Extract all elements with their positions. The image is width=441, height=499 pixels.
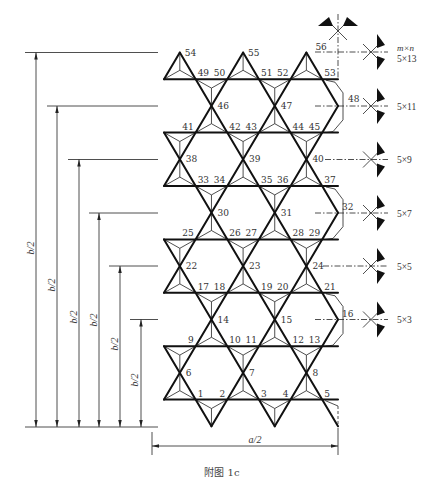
node-label: 2 [220, 389, 226, 399]
node-label: 10 [229, 335, 241, 345]
node-label: 8 [312, 368, 318, 378]
support-flag [377, 248, 385, 262]
dimension-label: b/2 [25, 242, 36, 255]
node-label: 9 [188, 335, 194, 345]
support-flag [318, 17, 333, 26]
node-label: 52 [277, 68, 288, 78]
support-size-label: 5×11 [397, 102, 417, 112]
node-label: 1 [198, 389, 204, 399]
diagonal-member [164, 133, 338, 427]
support-flag [377, 110, 385, 124]
node-label: 14 [217, 315, 229, 325]
edge-web-member [325, 401, 338, 406]
node-label: 21 [324, 282, 335, 292]
dimension-label: b/2 [88, 314, 99, 327]
node-label: 53 [324, 68, 336, 78]
node-label: 54 [185, 48, 197, 58]
support-flag [377, 302, 385, 316]
node-label: 5 [324, 389, 330, 399]
horizontal-dimension: a/2 [152, 428, 338, 455]
node-label: 36 [277, 175, 289, 185]
support-size-label: 5×3 [397, 315, 412, 325]
node-label: 24 [312, 261, 324, 271]
dimension-label: b/2 [68, 311, 79, 324]
node-label: 42 [229, 122, 240, 132]
node-label: 32 [342, 202, 353, 212]
node-label: 22 [186, 261, 197, 271]
node-label: 51 [261, 68, 272, 78]
dimension-label: b/2 [109, 338, 120, 351]
node-label: 49 [198, 68, 210, 78]
node-label: 55 [248, 48, 260, 58]
node-label: 23 [249, 261, 261, 271]
node-label: 20 [277, 282, 289, 292]
figure-caption: 附图 1c [204, 466, 240, 478]
support-size-label: 5×5 [397, 262, 412, 272]
diagonal-member [164, 106, 338, 400]
node-label: 25 [182, 228, 194, 238]
node-label: 47 [281, 101, 293, 111]
node-label: 30 [217, 208, 229, 218]
support-header-label: m×n [397, 43, 415, 53]
node-label: 18 [214, 282, 226, 292]
node-label: 38 [186, 154, 198, 164]
node-label: 39 [249, 154, 261, 164]
support-size-label: 5×7 [397, 209, 412, 219]
support-size-label: 5×13 [397, 54, 417, 64]
node-label: 43 [245, 122, 257, 132]
node-label: 31 [281, 208, 292, 218]
support-flag [377, 195, 385, 209]
support-flag [377, 217, 385, 231]
support-size-label: 5×9 [397, 155, 412, 165]
grid-structure-diagram: b/2 b/2 b/2 b/2 b/2 b/2 a/2 123456789101… [0, 0, 441, 499]
support-flag [343, 17, 358, 26]
support-flag [377, 164, 385, 178]
node-label: 41 [182, 122, 193, 132]
node-label: 56 [315, 42, 327, 52]
support-flag [377, 88, 385, 102]
support-flag [377, 142, 385, 156]
dimension-label: b/2 [46, 279, 57, 292]
support-flag [377, 324, 385, 338]
dimension-label: a/2 [249, 434, 262, 445]
node-label: 35 [261, 175, 273, 185]
node-label: 26 [229, 228, 241, 238]
node-label: 17 [198, 282, 210, 292]
diagonal-member [164, 53, 306, 293]
support-row: m×n5×13 [315, 34, 417, 70]
node-label: 34 [214, 175, 226, 185]
node-label: 33 [198, 175, 210, 185]
node-label: 44 [293, 122, 305, 132]
node-label: 3 [261, 389, 267, 399]
node-label: 29 [309, 228, 321, 238]
node-label: 4 [283, 389, 289, 399]
node-label: 46 [217, 101, 229, 111]
vertical-dimensions: b/2 b/2 b/2 b/2 b/2 b/2 [25, 53, 158, 428]
node-label: 40 [312, 154, 324, 164]
dimension-label: b/2 [129, 374, 140, 387]
support-row: 5×5 [323, 248, 412, 284]
node-label: 19 [261, 282, 273, 292]
node-label: 12 [293, 335, 304, 345]
support-flag [377, 270, 385, 284]
node-label: 16 [342, 309, 354, 319]
support-row: 5×9 [325, 142, 412, 178]
node-label: 15 [281, 315, 293, 325]
node-label: 37 [324, 175, 336, 185]
support-flag [377, 56, 385, 70]
node-label: 11 [245, 335, 256, 345]
node-label: 48 [348, 94, 360, 104]
support-flag [377, 34, 385, 48]
node-label: 27 [245, 228, 257, 238]
node-label: 7 [249, 368, 255, 378]
node-label: 28 [293, 228, 305, 238]
node-label: 13 [309, 335, 321, 345]
node-label: 6 [186, 368, 192, 378]
node-label: 45 [309, 122, 321, 132]
node-label: 50 [214, 68, 226, 78]
